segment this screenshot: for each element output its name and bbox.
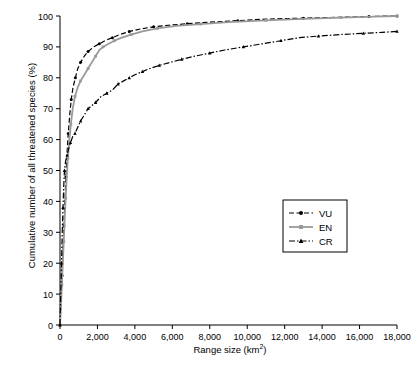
series-cr [58, 30, 398, 327]
x-axis-tick-label: 18,000 [383, 332, 411, 342]
x-axis-title: Range size (km2) [120, 343, 340, 355]
data-point [102, 46, 105, 49]
x-axis-tick-label: 12,000 [271, 332, 299, 342]
data-point [128, 76, 131, 79]
series-line [60, 16, 397, 325]
y-axis-tick-label: 0 [48, 321, 53, 331]
data-point [339, 16, 342, 19]
y-axis-tick-label: 10 [43, 290, 53, 300]
data-point [74, 95, 77, 98]
y-axis-tick-label: 70 [43, 104, 53, 114]
data-point [111, 36, 114, 39]
series-en [59, 15, 399, 327]
data-point [98, 42, 101, 45]
legend-label-cr: CR [319, 236, 333, 247]
data-point [396, 15, 399, 18]
data-point [113, 39, 116, 42]
chart-container: 010203040506070809010002,0004,0006,0008,… [0, 0, 414, 366]
legend-marker-circle-icon [299, 211, 303, 215]
data-point [61, 206, 64, 209]
data-point [94, 55, 97, 58]
data-point [70, 98, 73, 101]
x-axis-tick-label: 2,000 [86, 332, 109, 342]
data-point [66, 157, 69, 160]
x-axis-tick-label: 10,000 [233, 332, 261, 342]
series-vu [59, 15, 399, 327]
y-axis-tick-label: 20 [43, 259, 53, 269]
x-axis-tick-label: 4,000 [124, 332, 147, 342]
legend-box [283, 200, 347, 252]
y-axis-tick-label: 30 [43, 228, 53, 238]
legend: VUENCR [283, 200, 347, 252]
legend-label-en: EN [319, 222, 332, 233]
data-point [265, 19, 268, 22]
data-point [73, 132, 76, 135]
y-axis-tick-label: 40 [43, 197, 53, 207]
series-line [60, 16, 397, 325]
y-axis-tick-label: 50 [43, 166, 53, 176]
y-axis-tick-label: 60 [43, 135, 53, 145]
x-axis-tick-label: 0 [57, 332, 62, 342]
x-axis-title-end: ) [263, 344, 266, 355]
data-point [74, 76, 77, 79]
x-axis-tick-label: 8,000 [199, 332, 222, 342]
y-axis-tick-label: 100 [38, 12, 53, 22]
y-axis-title: Cumulative number of all threatened spec… [26, 56, 37, 276]
x-axis-tick-label: 6,000 [161, 332, 184, 342]
data-point [130, 33, 133, 36]
data-point [62, 240, 65, 243]
data-point [87, 67, 90, 70]
x-axis-tick-label: 16,000 [346, 332, 374, 342]
x-axis-tick-label: 14,000 [308, 332, 336, 342]
data-point [152, 25, 155, 28]
legend-label-vu: VU [319, 208, 332, 219]
y-axis-tick-label: 90 [43, 42, 53, 52]
data-point [79, 79, 82, 82]
data-point [128, 30, 131, 33]
x-axis-title-text: Range size (km [193, 344, 259, 355]
y-axis-tick-label: 80 [43, 73, 53, 83]
data-point [64, 197, 67, 200]
data-point [156, 27, 159, 30]
legend-marker-square-icon [299, 225, 303, 229]
data-point [79, 61, 82, 64]
series-line [60, 31, 397, 325]
data-point [87, 50, 90, 53]
data-point [69, 123, 72, 126]
chart-plot-area: 010203040506070809010002,0004,0006,0008,… [0, 0, 414, 366]
y-axis-title-text: Cumulative number of all threatened spec… [26, 63, 37, 268]
data-point [199, 23, 202, 26]
